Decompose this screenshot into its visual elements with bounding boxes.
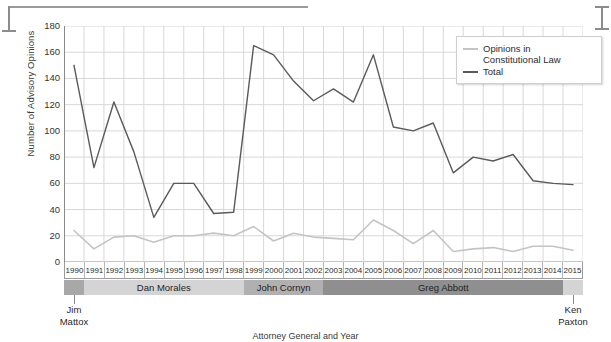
x-tick-year: 1993 [125,262,145,278]
x-tick-year: 2007 [404,262,424,278]
legend-item-constitutional: Opinions in Constitutional Law [463,43,595,65]
legend-swatch-total [463,71,478,73]
x-tick-year: 2004 [344,262,364,278]
legend-label-constitutional: Opinions in Constitutional Law [483,43,561,65]
x-tick-year: 2014 [543,262,563,278]
x-tick-year: 1991 [85,262,105,278]
crop-mark-top-left-foot [2,30,16,32]
y-tick-label: 100 [30,125,60,136]
ag-label-line1: Jim [67,304,82,315]
x-tick-year: 2008 [424,262,444,278]
crop-mark-top-left [8,6,10,32]
x-tick-year: 1995 [165,262,185,278]
ag-label-line2: Mattox [60,316,89,327]
x-tick-year: 2015 [563,262,582,278]
x-tick-year: 1992 [105,262,125,278]
x-axis-title: Attorney General and Year [0,331,611,341]
attorney-general-band [563,280,583,295]
legend-label-constitutional-line1: Opinions in [483,43,531,54]
x-tick-year: 2000 [264,262,284,278]
x-tick-year: 2011 [483,262,503,278]
y-axis-ticks: 020406080100120140160180 [28,26,60,262]
x-tick-year: 1994 [145,262,165,278]
leader-line [74,295,75,304]
x-tick-year: 2012 [503,262,523,278]
attorney-general-band: Dan Morales [84,280,244,295]
x-tick-year: 1997 [204,262,224,278]
y-tick-label: 120 [30,99,60,110]
x-axis-year-strip: 1990199119921993199419951996199719981999… [64,262,583,279]
legend-label-constitutional-line2: Constitutional Law [483,54,561,65]
y-tick-label: 140 [30,72,60,83]
attorney-general-outside-label: KenPaxton [533,304,611,328]
ag-label-line1: Ken [565,304,582,315]
y-tick-label: 60 [30,177,60,188]
attorney-general-bands: Dan MoralesJohn CornynGreg Abbott [64,280,583,295]
y-tick-label: 160 [30,46,60,57]
x-tick-year: 1998 [224,262,244,278]
crop-mark-top-right [601,6,603,30]
y-tick-label: 80 [30,151,60,162]
attorney-general-band: John Cornyn [244,280,324,295]
crop-mark-top-right-foot-bottom [595,28,609,30]
y-tick-label: 40 [30,204,60,215]
legend-swatch-constitutional [463,48,478,50]
x-tick-year: 2010 [463,262,483,278]
crop-mark-top-right-foot-top [595,6,609,8]
x-tick-year: 2003 [324,262,344,278]
legend-item-total: Total [463,66,595,77]
attorney-general-band: Greg Abbott [323,280,563,295]
chart-legend: Opinions in Constitutional Law Total [456,36,602,84]
x-tick-year: 2009 [444,262,464,278]
attorney-general-outside-label: JimMattox [34,304,114,328]
ag-label-line2: Paxton [558,316,588,327]
x-tick-year: 2013 [523,262,543,278]
chart-canvas: Number of Advisory Opinions 020406080100… [0,0,611,342]
x-tick-year: 2005 [364,262,384,278]
y-tick-label: 180 [30,20,60,31]
x-tick-year: 1999 [244,262,264,278]
x-tick-year: 2006 [384,262,404,278]
crop-mark-top [8,6,308,8]
legend-label-total: Total [483,66,503,77]
x-tick-year: 2002 [304,262,324,278]
y-tick-label: 20 [30,230,60,241]
x-tick-year: 1990 [65,262,85,278]
x-tick-year: 2001 [284,262,304,278]
x-tick-year: 1996 [185,262,205,278]
y-tick-label: 0 [30,256,60,267]
attorney-general-band [64,280,84,295]
leader-line [573,295,574,304]
